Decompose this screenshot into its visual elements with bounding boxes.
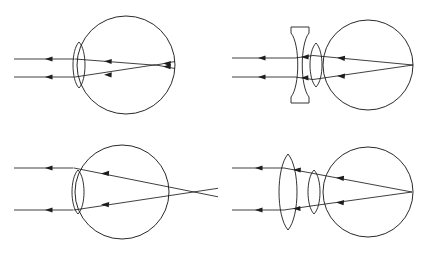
ray-arrow-lower-converged [293,206,301,211]
eye-crystalline-lens [308,170,320,214]
spectacle-lens-biconvex [279,154,297,230]
post-focus-ray-upper [196,192,218,196]
panel-hyperopia-corrected [232,147,413,237]
ray-arrow-lower-incident [255,207,263,212]
eye-crystalline-lens [73,42,85,88]
spectacle-lens-biconcave [291,27,309,103]
eye-crystalline-lens [310,43,322,87]
ray-arrow-lower-refracted [337,74,345,79]
refracted-ray-lower [313,65,413,80]
panel-myopia-corrected [232,20,413,110]
ray-arrow-lower-incident [45,74,53,79]
optics-figure-canvas [0,0,438,257]
refracted-ray-lower [74,192,196,210]
eyeball-globe [323,147,413,237]
optics-figure-root [0,0,438,257]
ray-arrow-lower-refracted [336,200,344,205]
ray-arrow-upper-refracted [337,56,345,61]
refracted-ray-upper [74,168,196,192]
refracted-ray-upper [75,59,155,65]
ray-arrow-upper-refracted [336,176,344,181]
eyeball-globe [323,20,413,110]
refracted-ray-lower [311,192,412,206]
post-focus-ray-lower [196,188,218,191]
eyeball-globe [77,16,175,114]
ray-arrow-upper-refracted [104,59,112,64]
ray-arrow-upper-incident [258,55,266,60]
ray-arrow-lower-refracted [101,202,109,207]
ray-arrow-upper-incident [45,165,53,170]
eyeball-globe [75,145,169,239]
refracted-ray-upper [313,56,413,66]
ray-arrow-lower-incident [258,74,266,79]
panel-myopia-uncorrected [14,16,175,114]
ray-arrow-lower-diverged [301,75,309,80]
panel-hyperopia-uncorrected [14,145,218,239]
refracted-ray-upper [311,173,412,192]
ray-arrow-upper-incident [45,56,53,61]
ray-arrow-upper-refracted [101,171,109,176]
refracted-ray-lower [75,65,155,77]
ray-arrow-lower-refracted [104,72,112,77]
ray-arrow-upper-incident [255,165,263,170]
ray-arrow-lower-incident [45,207,53,212]
